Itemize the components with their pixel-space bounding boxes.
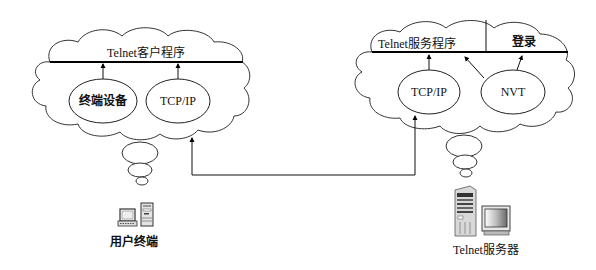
client-module-terminal: 终端设备 (69, 79, 137, 123)
server-module-tcpip-label: TCP/IP (411, 85, 447, 99)
telnet-server-label: Telnet服务器 (453, 242, 519, 257)
client-program-label: Telnet客户程序 (107, 45, 185, 60)
server-program-label: Telnet服务程序 (378, 36, 456, 51)
telnet-server-icon (455, 186, 510, 236)
client-module-tcpip-label: TCP/IP (160, 94, 196, 108)
server-module-nvt-label: NVT (501, 85, 526, 99)
server-module-tcpip: TCP/IP (398, 70, 460, 114)
server-login-label: 登录 (511, 34, 536, 49)
user-terminal-icon (118, 203, 153, 226)
client-module-terminal-label: 终端设备 (79, 93, 128, 108)
server-module-nvt: NVT (481, 70, 545, 114)
client-module-tcpip: TCP/IP (146, 79, 210, 123)
user-terminal-label: 用户终端 (109, 234, 158, 249)
